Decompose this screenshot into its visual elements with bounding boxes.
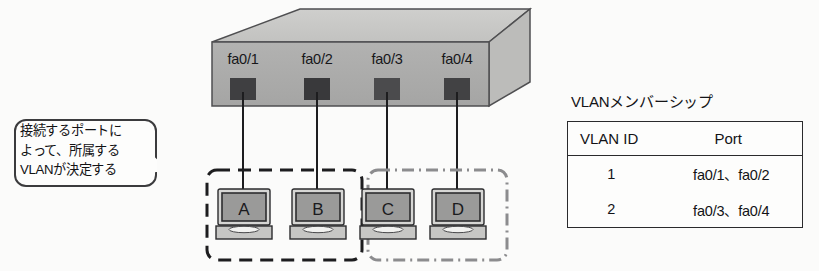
computer-label-d: D <box>429 200 487 220</box>
cell-vlan-id: 1 <box>568 156 665 192</box>
vlan-membership-table: VLAN ID Port 1 fa0/1、fa0/2 2 fa0/3、fa0/4 <box>567 121 803 228</box>
cell-vlan-id: 2 <box>568 192 665 227</box>
table-row: 2 fa0/3、fa0/4 <box>568 192 802 227</box>
computer-c-label-wrap: C <box>359 188 417 240</box>
vlan-membership-diagram: fa0/1 fa0/2 fa0/3 fa0/4 接続するポートに よって、所属す… <box>0 0 819 271</box>
computer-d-label-wrap: D <box>429 188 487 240</box>
computer-label-b: B <box>289 200 347 220</box>
computer-b-label-wrap: B <box>289 188 347 240</box>
column-header-port: Port <box>665 122 802 156</box>
vlan-membership-title: VLANメンバーシップ <box>571 90 713 111</box>
computer-a-label-wrap: A <box>215 188 273 240</box>
cell-ports: fa0/1、fa0/2 <box>665 156 802 192</box>
computer-label-c: C <box>359 200 417 220</box>
computer-label-a: A <box>215 200 273 220</box>
table-row: 1 fa0/1、fa0/2 <box>568 156 802 192</box>
column-header-vlan-id: VLAN ID <box>568 122 665 156</box>
table-header-row: VLAN ID Port <box>568 122 802 156</box>
cell-ports: fa0/3、fa0/4 <box>665 192 802 227</box>
